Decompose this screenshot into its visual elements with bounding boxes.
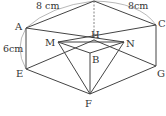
edge-H-G	[94, 40, 156, 66]
label-M: M	[45, 37, 55, 48]
label-F: F	[85, 98, 92, 109]
edge-A-N	[26, 28, 124, 42]
edge-N-F	[90, 42, 124, 94]
label-H: H	[91, 29, 100, 40]
edge-E-F	[26, 69, 90, 94]
label-E: E	[16, 68, 23, 79]
label-B: B	[92, 54, 99, 65]
dimension-left: 6cm	[3, 43, 23, 54]
label-C: C	[158, 18, 166, 29]
label-A: A	[14, 21, 23, 32]
cuboid-diagram: A C E G F H B M N 8 cm 8cm 6cm	[0, 0, 166, 116]
edge-M-F	[58, 42, 90, 94]
edge-F-G	[90, 66, 156, 94]
label-G: G	[157, 68, 165, 79]
dimension-top-left: 8 cm	[36, 0, 59, 11]
label-N: N	[126, 38, 135, 49]
dimension-top-right: 8cm	[128, 0, 148, 11]
edge-N-B	[90, 42, 124, 53]
